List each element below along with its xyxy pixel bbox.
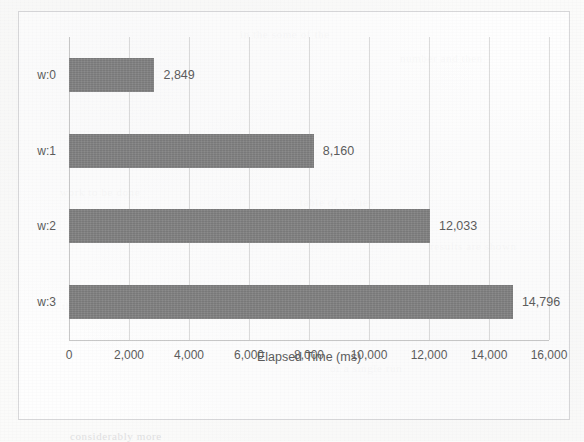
- category-label: w:3: [37, 295, 56, 309]
- bar-value-label: 2,849: [163, 68, 194, 82]
- x-axis-baseline: [69, 340, 549, 341]
- bar-value-label: 8,160: [323, 144, 354, 158]
- bar-value-label: 12,033: [439, 219, 477, 233]
- category-label: w:1: [37, 144, 56, 158]
- category-label: w:0: [37, 68, 56, 82]
- x-axis-title: Elapsed Time (ms): [69, 350, 549, 364]
- bar-value-label: 14,796: [522, 295, 560, 309]
- plot-area: 02,0004,0006,0008,00010,00012,00014,0001…: [69, 37, 549, 340]
- bar[interactable]: w:18,160: [69, 134, 314, 168]
- bar-row: w:212,033: [69, 189, 549, 265]
- bar-row: w:314,796: [69, 264, 549, 340]
- bar[interactable]: w:212,033: [69, 209, 430, 243]
- bar-row: w:18,160: [69, 113, 549, 189]
- page-bleed-text: considerably more: [70, 430, 162, 442]
- chart-container: 02,0004,0006,0008,00010,00012,00014,0001…: [18, 11, 570, 420]
- bar-row: w:02,849: [69, 37, 549, 113]
- bar[interactable]: w:314,796: [69, 285, 513, 319]
- category-label: w:2: [37, 219, 56, 233]
- bar[interactable]: w:02,849: [69, 58, 154, 92]
